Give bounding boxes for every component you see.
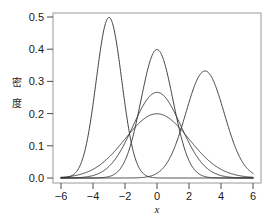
y-axis-title-char-1: 密 bbox=[12, 76, 22, 88]
chart-canvas: 0.00.10.20.30.40.5 −6−4−20246 密 度 x bbox=[0, 0, 268, 222]
y-axis-title-char-2: 度 bbox=[12, 97, 22, 109]
x-tick-label: 0 bbox=[154, 190, 160, 202]
x-tick-label: −6 bbox=[55, 190, 68, 202]
y-tick-label: 0.5 bbox=[29, 11, 44, 23]
density-plot-figure: 0.00.10.20.30.40.5 −6−4−20246 密 度 x bbox=[0, 0, 268, 222]
x-tick-label: 4 bbox=[218, 190, 224, 202]
y-tick-label: 0.4 bbox=[29, 43, 44, 55]
y-tick-label: 0.2 bbox=[29, 108, 44, 120]
y-tick-label: 0.3 bbox=[29, 75, 44, 87]
x-axis-title: x bbox=[154, 203, 160, 215]
y-tick-label: 0.0 bbox=[29, 172, 44, 184]
x-tick-label: −2 bbox=[119, 190, 132, 202]
x-tick-label: 6 bbox=[250, 190, 256, 202]
x-tick-label: −4 bbox=[87, 190, 100, 202]
y-tick-label: 0.1 bbox=[29, 140, 44, 152]
x-tick-label: 2 bbox=[186, 190, 192, 202]
